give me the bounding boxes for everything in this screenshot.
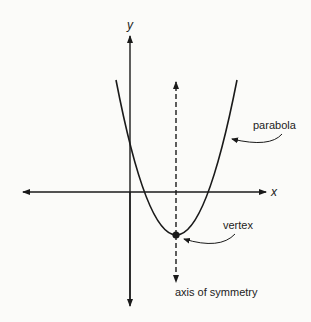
x-axis-label: x <box>270 185 278 199</box>
parabola-diagram: y x parabola vertex axis of symmetry <box>0 0 311 322</box>
vertex-label: vertex <box>223 219 253 231</box>
parabola-label: parabola <box>253 119 297 131</box>
y-axis-label: y <box>126 18 134 32</box>
vertex-leader-arrow <box>184 234 235 243</box>
vertex-point <box>172 231 179 238</box>
axis-of-symmetry-label: axis of symmetry <box>175 286 258 298</box>
parabola-leader-arrow <box>232 134 282 143</box>
